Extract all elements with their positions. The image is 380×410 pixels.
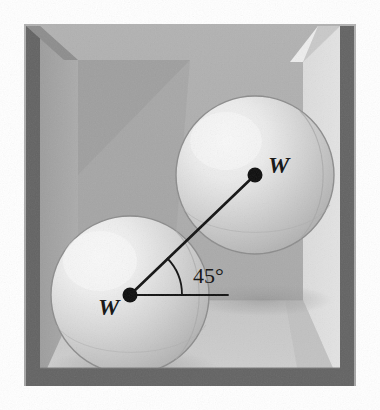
bottom-wall-bar xyxy=(26,368,354,386)
upper-sphere-contact-shadow xyxy=(192,284,332,316)
upper-weight-dot xyxy=(248,168,263,183)
figure-container: 45° W W xyxy=(0,0,380,410)
lower-weight-label: W xyxy=(98,294,121,320)
left-wall-outer-edge xyxy=(26,26,40,384)
lower-weight-dot xyxy=(123,288,138,303)
upper-sphere-specular xyxy=(190,112,262,170)
diagram-svg: 45° W W xyxy=(0,0,380,410)
angle-label: 45° xyxy=(193,263,224,288)
right-wall-outer-edge xyxy=(340,26,354,384)
container-interior xyxy=(24,24,356,388)
upper-weight-label: W xyxy=(268,152,291,178)
lower-sphere-specular xyxy=(63,231,137,291)
